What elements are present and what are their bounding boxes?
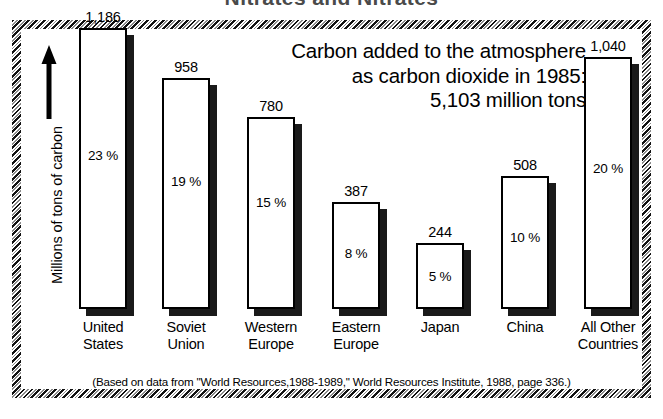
bar-label-line-1: Japan [403,319,477,336]
bar-value-eastern-europe: 387 [332,183,380,199]
bar-value-western-europe: 780 [247,98,295,114]
bar-value-soviet-union: 958 [162,59,210,75]
bar-label-united-states: UnitedStates [66,319,140,352]
bar-all-other-countries[interactable] [584,57,632,309]
bar-value-united-states: 1,186 [79,9,127,25]
bar-united-states[interactable] [79,28,127,309]
cut-off-page-headline: Nitrates and Nitrates [0,0,663,8]
bar-percent-united-states: 23 % [79,148,127,163]
bar-western-europe[interactable] [247,117,295,309]
bar-percent-all-other-countries: 20 % [584,161,632,176]
bar-value-china: 508 [501,157,549,173]
bar-label-line-1: Soviet [149,319,223,336]
bar-label-western-europe: WesternEurope [234,319,308,352]
bar-label-china: China [488,319,562,336]
bar-group-western-europe[interactable]: 78015 %WesternEurope [247,117,302,316]
bar-percent-eastern-europe: 8 % [332,246,380,261]
bar-percent-china: 10 % [501,230,549,245]
bar-group-all-other-countries[interactable]: 1,04020 %All OtherCountries [584,57,639,316]
bar-label-line-1: Western [234,319,308,336]
plot-area: 1,18623 %UnitedStates95819 %SovietUnion7… [21,29,642,389]
bar-label-line-2: Countries [571,336,645,353]
bar-percent-western-europe: 15 % [247,195,295,210]
bar-group-united-states[interactable]: 1,18623 %UnitedStates [79,28,134,316]
bar-label-line-1: Eastern [319,319,393,336]
bar-label-all-other-countries: All OtherCountries [571,319,645,352]
bar-label-line-2: Europe [234,336,308,353]
bar-label-eastern-europe: EasternEurope [319,319,393,352]
bar-percent-japan: 5 % [416,269,464,284]
figure-inner: Millions of tons of carbon Carbon added … [21,29,642,389]
bar-percent-soviet-union: 19 % [162,174,210,189]
bar-group-eastern-europe[interactable]: 3878 %EasternEurope [332,202,387,316]
bar-label-line-2: Union [149,336,223,353]
bar-label-line-1: All Other [571,319,645,336]
bar-label-line-2: States [66,336,140,353]
bar-label-japan: Japan [403,319,477,336]
bar-value-japan: 244 [416,224,464,240]
bar-group-japan[interactable]: 2445 %Japan [416,243,471,316]
figure-frame: Millions of tons of carbon Carbon added … [12,20,651,398]
bar-label-line-2: Europe [319,336,393,353]
bar-label-line-1: United [66,319,140,336]
bar-group-soviet-union[interactable]: 95819 %SovietUnion [162,78,217,316]
bar-group-china[interactable]: 50810 %China [501,176,556,316]
bar-label-line-1: China [488,319,562,336]
source-caption: (Based on data from "World Resources,198… [21,375,642,388]
bar-soviet-union[interactable] [162,78,210,309]
bar-value-all-other-countries: 1,040 [584,38,632,54]
bar-label-soviet-union: SovietUnion [149,319,223,352]
